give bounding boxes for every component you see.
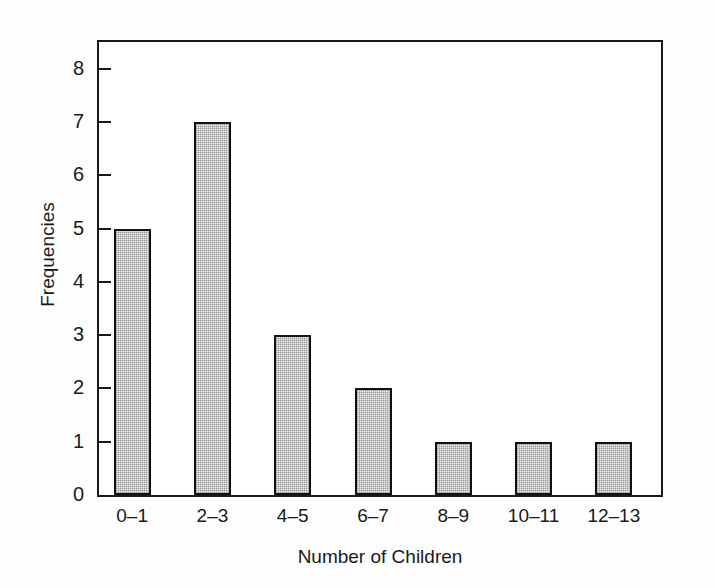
bar (274, 335, 311, 495)
y-tick-label: 2 (58, 377, 84, 397)
bar (595, 442, 632, 495)
x-tick-label: 12–13 (568, 505, 660, 527)
x-tick-label: 8–9 (407, 505, 499, 527)
x-tick-label: 6–7 (327, 505, 419, 527)
x-tick-label: 10–11 (488, 505, 580, 527)
y-axis-title: Frequencies (38, 185, 57, 325)
y-tick-label: 0 (58, 484, 84, 504)
x-tick-label: 0–1 (86, 505, 178, 527)
x-axis-title: Number of Children (97, 546, 663, 568)
x-tick-label: 2–3 (166, 505, 258, 527)
y-tick-label: 8 (58, 58, 84, 78)
y-tick-label: 5 (58, 218, 84, 238)
bar (435, 442, 472, 495)
bar (355, 388, 392, 495)
bar (515, 442, 552, 495)
bars-layer (99, 42, 661, 495)
bar (194, 122, 231, 495)
x-tick-label: 4–5 (247, 505, 339, 527)
y-tick-label: 3 (58, 324, 84, 344)
y-tick-label: 4 (58, 271, 84, 291)
bar (114, 229, 151, 495)
histogram-figure: Frequencies 876543210 0–12–34–56–78–910–… (0, 0, 714, 588)
y-tick-label: 1 (58, 431, 84, 451)
y-tick-label: 7 (58, 111, 84, 131)
y-tick-label: 6 (58, 164, 84, 184)
